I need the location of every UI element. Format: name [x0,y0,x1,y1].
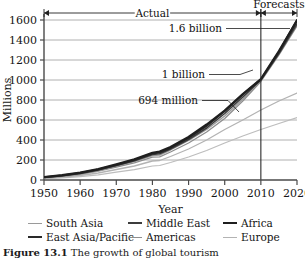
span-label-forecasts: Forecasts [253,0,304,10]
x-tick-label: 2000 [211,187,239,200]
legend-swatch-europe [223,237,237,238]
legend-item-east-asia-pacific[interactable]: East Asia/Pacific [28,230,128,244]
legend-label-middle-east: Middle East [146,216,210,230]
value-annotations: 1.6 billion1 billion694 million [138,22,290,112]
y-axis-title: Millions [1,77,14,122]
span-label-actual: Actual [134,7,170,19]
legend-label-east-asia-pacific: East Asia/Pacific [46,230,134,244]
legend-swatch-middle-east [128,222,142,224]
y-tick-label: 200 [16,154,37,167]
x-tick-label: 1970 [102,187,130,200]
figure-caption: Figure 13.1 The growth of global tourism [3,247,305,258]
legend-item-americas[interactable]: Americas [128,230,223,244]
figure-caption-label: Figure 13.1 [3,247,68,258]
y-tick-label: 1200 [9,54,37,67]
chart-legend: South Asia Middle East Africa East Asia/… [0,216,305,244]
x-tick-label: 1960 [66,187,94,200]
annotation-label: 1 billion [162,68,205,80]
x-tick-label: 1950 [30,187,58,200]
legend-label-africa: Africa [241,216,273,230]
figure-caption-text: The growth of global tourism [71,247,219,258]
gridlines [44,20,297,160]
span-forecasts: Forecasts [253,0,304,17]
legend-swatch-south-asia [28,223,42,224]
legend-item-south-asia[interactable]: South Asia [28,216,128,230]
legend-item-middle-east[interactable]: Middle East [128,216,223,230]
y-tick-label: 1600 [9,14,37,27]
legend-label-south-asia: South Asia [46,216,103,230]
x-tick-label: 2010 [247,187,275,200]
span-actual: Actual [44,7,261,19]
x-axis-title: Year [157,203,183,215]
annotation-label: 1.6 billion [169,22,223,34]
legend-swatch-africa [223,222,237,224]
tourism-growth-line-chart: 02004006008001000120014001600Millions195… [0,0,305,215]
legend-item-europe[interactable]: Europe [223,230,305,244]
x-tick-label: 1990 [175,187,203,200]
span-annotations: ActualForecasts [44,0,305,19]
y-tick-label: 1400 [9,34,37,47]
annotation-label: 694 million [138,94,198,106]
legend-swatch-east-asia-pacific [28,236,42,238]
x-axis: 19501960197019801990200020102020 [30,180,305,200]
x-tick-label: 1980 [138,187,166,200]
legend-label-europe: Europe [241,230,280,244]
legend-item-africa[interactable]: Africa [223,216,305,230]
x-tick-label: 2020 [283,187,305,200]
y-axis: 02004006008001000120014001600 [9,14,44,187]
y-tick-label: 0 [30,174,37,187]
legend-swatch-americas [128,237,142,238]
chart-area: 02004006008001000120014001600Millions195… [0,0,305,215]
y-tick-label: 400 [16,134,37,147]
y-tick-label: 800 [16,94,37,107]
legend-label-americas: Americas [146,230,196,244]
annotation-leader-line [209,70,253,75]
y-tick-label: 600 [16,114,37,127]
